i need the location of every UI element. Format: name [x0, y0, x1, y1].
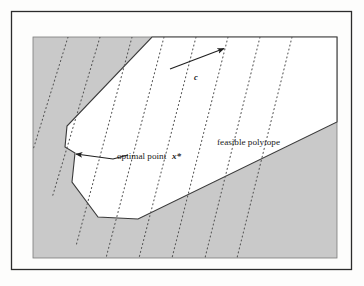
linear-programming-figure: OPTIMALITY AND DUALITY PROBLEMS c [0, 0, 364, 286]
page-canvas: OPTIMALITY AND DUALITY PROBLEMS c [0, 0, 364, 286]
optimal-point-symbol: x* [171, 151, 182, 161]
feasible-polytope-label: feasible polytope [217, 137, 280, 147]
gradient-vector-label: c [194, 72, 198, 82]
optimal-point-label: optimal point [117, 151, 167, 161]
